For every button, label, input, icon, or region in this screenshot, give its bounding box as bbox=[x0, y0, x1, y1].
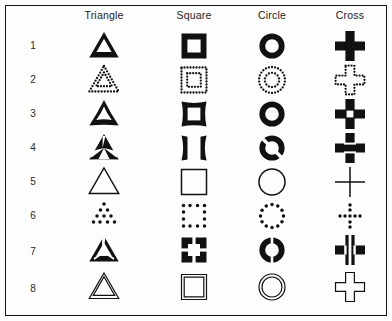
shape-cross-row-3 bbox=[322, 96, 378, 132]
figure-canvas: Triangle Square Circle Cross 1 2 3 4 5 6… bbox=[0, 0, 392, 321]
shape-cross-row-6 bbox=[322, 198, 378, 234]
row-number: 8 bbox=[24, 283, 42, 294]
shape-circle-row-4 bbox=[244, 130, 300, 166]
shape-circle-row-5 bbox=[244, 164, 300, 200]
shape-triangle-row-2 bbox=[76, 62, 132, 98]
row-number: 4 bbox=[24, 142, 42, 153]
shape-cross-row-4 bbox=[322, 130, 378, 166]
shape-cross-row-5 bbox=[322, 164, 378, 200]
shape-circle-row-6 bbox=[244, 198, 300, 234]
shape-triangle-row-6 bbox=[76, 198, 132, 234]
shape-square-row-5 bbox=[166, 164, 222, 200]
shape-cross-row-8 bbox=[322, 269, 378, 305]
row-number: 1 bbox=[24, 40, 42, 51]
shape-cross-row-7 bbox=[322, 232, 378, 268]
column-header-triangle: Triangle bbox=[84, 9, 123, 21]
shape-circle-row-3 bbox=[244, 96, 300, 132]
shape-square-row-6 bbox=[166, 198, 222, 234]
shape-triangle-row-5 bbox=[76, 164, 132, 200]
row-number: 7 bbox=[24, 246, 42, 257]
row-number: 2 bbox=[24, 74, 42, 85]
shape-square-row-7 bbox=[166, 232, 222, 268]
row-number: 6 bbox=[24, 210, 42, 221]
shape-triangle-row-8 bbox=[76, 269, 132, 305]
shape-square-row-4 bbox=[166, 130, 222, 166]
column-header-cross: Cross bbox=[336, 9, 364, 21]
shape-square-row-1 bbox=[166, 28, 222, 64]
shape-triangle-row-7 bbox=[76, 232, 132, 268]
shape-triangle-row-3 bbox=[76, 96, 132, 132]
column-header-circle: Circle bbox=[258, 9, 286, 21]
shape-circle-row-1 bbox=[244, 28, 300, 64]
row-number: 3 bbox=[24, 108, 42, 119]
row-number: 5 bbox=[24, 176, 42, 187]
shape-cross-row-1 bbox=[322, 28, 378, 64]
shape-triangle-row-4 bbox=[76, 130, 132, 166]
shape-circle-row-2 bbox=[244, 62, 300, 98]
shape-cross-row-2 bbox=[322, 62, 378, 98]
shape-circle-row-8 bbox=[244, 269, 300, 305]
column-header-square: Square bbox=[176, 9, 211, 21]
shape-square-row-3 bbox=[166, 96, 222, 132]
shape-circle-row-7 bbox=[244, 232, 300, 268]
shape-square-row-2 bbox=[166, 62, 222, 98]
shape-triangle-row-1 bbox=[76, 28, 132, 64]
shape-square-row-8 bbox=[166, 269, 222, 305]
